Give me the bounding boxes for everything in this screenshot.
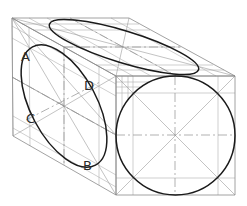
inscribed-curves: [3, 9, 235, 195]
point-labels: A D C B: [21, 49, 94, 173]
label-c: C: [26, 111, 35, 126]
cube-circles-diagram: A D C B: [0, 0, 247, 206]
label-b: B: [83, 158, 92, 173]
label-a: A: [21, 49, 30, 64]
label-d: D: [84, 78, 94, 93]
